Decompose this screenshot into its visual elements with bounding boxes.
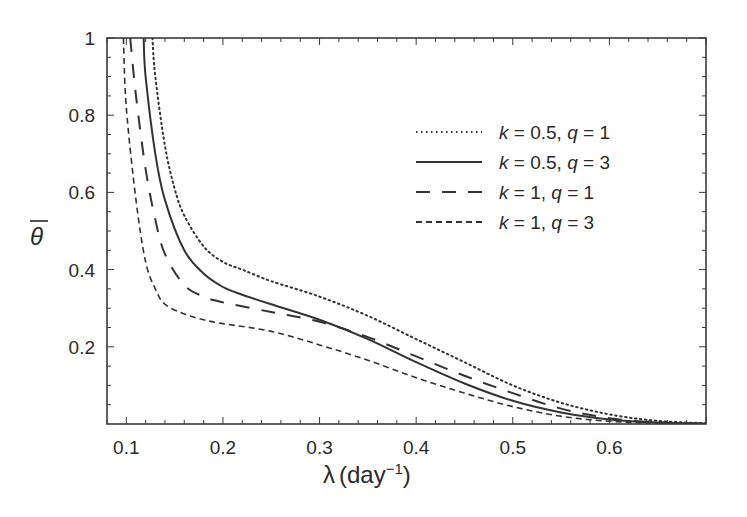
plot-frame [107, 38, 706, 424]
series-line-solid [144, 38, 706, 424]
x-tick-label: 0.3 [306, 437, 332, 458]
legend-label: k = 0.5, q = 3 [499, 152, 610, 173]
legend-item: k = 1, q = 1 [416, 182, 594, 203]
x-tick-label: 0.4 [403, 437, 430, 458]
x-axis-title: λ(day−1) [323, 460, 411, 488]
legend-label: k = 1, q = 3 [499, 212, 594, 233]
x-axis-ticks: 0.10.20.30.40.50.6 [107, 38, 706, 458]
legend-item: kk = 0.5, q = 1 = 0.5, q = 1 [416, 122, 610, 143]
y-axis-title: θ [30, 221, 48, 250]
y-axis-title-text: θ [30, 223, 43, 250]
series-line-long-dash [130, 38, 706, 424]
legend-item: k = 0.5, q = 3 [416, 152, 610, 173]
x-axis-title-unit: (day [339, 461, 386, 488]
x-tick-label: 0.6 [596, 437, 622, 458]
x-axis-title-symbol: λ [323, 461, 335, 488]
x-axis-title-exponent: −1 [386, 460, 403, 477]
x-axis-title-close: ) [403, 461, 411, 488]
legend-label: kk = 0.5, q = 1 = 0.5, q = 1 [499, 122, 610, 143]
x-tick-label: 0.2 [210, 437, 236, 458]
y-tick-label: 0.4 [69, 260, 96, 281]
legend: kk = 0.5, q = 1 = 0.5, q = 1 k = 0.5, q … [416, 122, 610, 233]
series-line-short-dash [123, 38, 706, 424]
series-line-dotted [152, 38, 706, 423]
y-tick-label: 0.2 [69, 337, 95, 358]
legend-label: k = 1, q = 1 [499, 182, 594, 203]
y-tick-label: 0.8 [69, 105, 95, 126]
legend-item: k = 1, q = 3 [416, 212, 594, 233]
y-tick-label: 0.6 [69, 182, 95, 203]
x-tick-label: 0.1 [113, 437, 139, 458]
series-layer [123, 38, 706, 424]
line-chart: 0.10.20.30.40.50.6 0.20.40.60.81 θ λ(day… [0, 0, 747, 517]
y-tick-label: 1 [84, 28, 95, 49]
x-tick-label: 0.5 [500, 437, 526, 458]
